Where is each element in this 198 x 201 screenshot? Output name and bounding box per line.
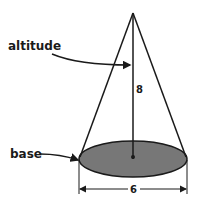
base-pointer-arrow [40,154,78,160]
altitude-pointer-arrow [52,54,130,65]
cone-diagram: altitude 8 base 6 [0,0,198,201]
base-center-point [131,155,135,159]
altitude-label: altitude [8,39,61,53]
height-value: 8 [136,84,143,95]
cone-side-left [80,13,133,157]
diameter-value: 6 [130,184,137,195]
base-label: base [10,147,42,161]
